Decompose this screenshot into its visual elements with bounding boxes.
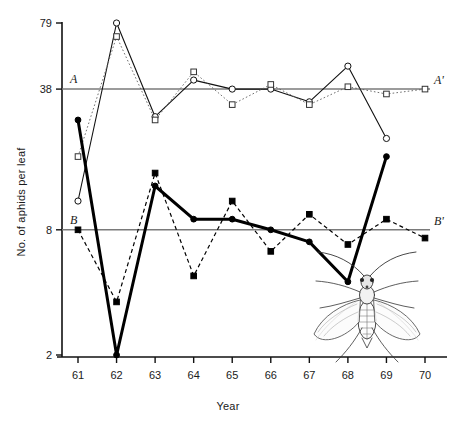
data-point: [191, 77, 197, 83]
mean-line-b-left-label: B: [70, 213, 78, 227]
y-tick-label: 79: [40, 17, 52, 29]
x-tick-label: 64: [188, 369, 200, 381]
data-point: [152, 183, 158, 189]
x-tick-label: 63: [149, 369, 161, 381]
x-tick-label: 67: [303, 369, 315, 381]
data-point: [422, 235, 428, 241]
x-tick-label: 69: [380, 369, 392, 381]
x-tick-label: 66: [265, 369, 277, 381]
data-point: [307, 211, 313, 217]
y-tick-label: 38: [40, 83, 52, 95]
x-tick-label: 68: [342, 369, 354, 381]
x-axis-ticks: 61626364656667686970: [72, 357, 431, 381]
data-point: [345, 63, 351, 69]
data-point: [345, 242, 351, 248]
data-point: [268, 227, 274, 233]
data-point: [75, 154, 81, 160]
data-point: [345, 279, 351, 285]
data-point: [268, 249, 274, 255]
data-point: [114, 299, 120, 305]
data-point: [114, 34, 120, 40]
aphid-population-chart: No. of aphids per leaf Year 793882 61626…: [0, 0, 456, 429]
data-point: [306, 239, 312, 245]
data-point: [384, 91, 390, 97]
data-point: [191, 216, 197, 222]
data-point: [75, 198, 81, 204]
x-tick-label: 61: [72, 369, 84, 381]
series-upper-open-circle: [75, 20, 390, 204]
data-point: [191, 273, 197, 279]
y-axis-ticks: 793882: [40, 17, 62, 361]
data-point: [152, 170, 158, 176]
data-point: [191, 69, 197, 75]
mean-line-b-right-label: B': [434, 214, 444, 228]
series-upper-open-square: [75, 34, 428, 160]
aphid-illustration: [314, 252, 420, 362]
mean-line-a-left-label: A: [69, 72, 78, 86]
data-point: [229, 102, 235, 108]
data-point: [229, 86, 235, 92]
mean-line-a-right-label: A': [433, 73, 444, 87]
data-point: [422, 86, 428, 92]
data-point: [75, 227, 81, 233]
data-point: [229, 216, 235, 222]
x-tick-label: 70: [419, 369, 431, 381]
series-line: [78, 23, 386, 201]
y-tick-label: 2: [46, 349, 52, 361]
data-point: [268, 82, 274, 88]
data-point: [307, 102, 313, 108]
data-point: [384, 154, 390, 160]
data-point: [114, 352, 120, 358]
data-point: [383, 135, 389, 141]
x-tick-label: 62: [110, 369, 122, 381]
data-point: [152, 117, 158, 123]
x-tick-label: 65: [226, 369, 238, 381]
data-point: [75, 117, 81, 123]
plot-area: 793882 61626364656667686970 AA'BB': [0, 0, 456, 429]
data-point: [345, 84, 351, 90]
data-point: [229, 198, 235, 204]
data-point: [113, 20, 119, 26]
data-point: [384, 216, 390, 222]
y-tick-label: 8: [46, 224, 52, 236]
